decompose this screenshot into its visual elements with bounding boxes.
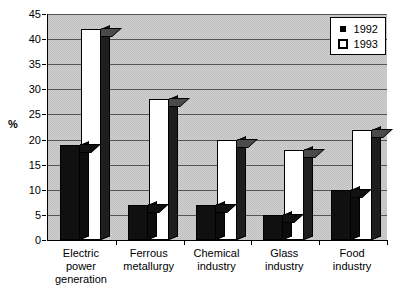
x-axis-tick-mark	[387, 240, 388, 245]
x-axis-tick-mark	[251, 240, 252, 245]
bar-side-face	[304, 146, 313, 240]
bar-group	[184, 14, 252, 240]
bar-side-face	[101, 25, 110, 240]
y-axis-tick-mark	[42, 240, 46, 241]
category-label-line: generation	[42, 273, 120, 286]
y-axis-tick-mark	[42, 64, 46, 65]
category-label-line: Chemical	[178, 247, 256, 260]
bar-side-face	[372, 126, 381, 240]
y-axis-tick-mark	[42, 39, 46, 40]
category-label-1: Electricpowergeneration	[42, 247, 120, 286]
legend-item-1992: 1992	[336, 21, 378, 36]
category-label-2: Ferrousmetallurgy	[110, 247, 188, 273]
legend-item-1993: 1993	[336, 36, 378, 51]
y-axis-tick-mark	[42, 140, 46, 141]
legend-label-1993: 1993	[354, 38, 378, 50]
category-label-line: Ferrous	[110, 247, 188, 260]
bar-side-face	[169, 96, 178, 240]
category-label-line: Electric	[42, 247, 120, 260]
category-label-line: industry	[313, 260, 391, 273]
category-label-5: Foodindustry	[313, 247, 391, 273]
category-label-line: Glass	[245, 247, 323, 260]
y-axis-tick-label: 40	[8, 34, 41, 45]
legend: 1992 1993	[330, 17, 386, 55]
category-label-4: Glassindustry	[245, 247, 323, 273]
y-axis-tick-label: 5	[8, 210, 41, 221]
category-label-line: power	[42, 260, 120, 273]
x-axis-tick-mark	[184, 240, 185, 245]
bar-1992-3	[196, 205, 216, 240]
y-axis-tick-label: 10	[8, 185, 41, 196]
category-label-line: industry	[178, 260, 256, 273]
bar-front-face	[331, 190, 351, 240]
bar-group	[251, 14, 319, 240]
bar-1992-4	[263, 215, 283, 240]
category-label-line: industry	[245, 260, 323, 273]
bar-front-face	[60, 145, 80, 240]
y-axis-tick-label: 0	[8, 235, 41, 246]
bar-front-face	[263, 215, 283, 240]
category-label-line: metallurgy	[110, 260, 188, 273]
bar-group	[116, 14, 184, 240]
y-axis-tick-mark	[42, 190, 46, 191]
bar-front-face	[128, 205, 148, 240]
y-axis-tick-mark	[42, 89, 46, 90]
x-axis-tick-mark	[116, 240, 117, 245]
y-axis-tick-label: 45	[8, 9, 41, 20]
bar-chart: % 051015202530354045 Electricpowergenera…	[0, 0, 395, 295]
y-axis-tick-mark	[42, 165, 46, 166]
bar-1992-1	[60, 145, 80, 240]
category-label-3: Chemicalindustry	[178, 247, 256, 273]
x-axis-tick-mark	[319, 240, 320, 245]
y-axis-tick-mark	[42, 215, 46, 216]
category-label-line: Food	[313, 247, 391, 260]
y-axis-tick-mark	[42, 114, 46, 115]
y-axis-tick-label: 30	[8, 84, 41, 95]
outlined-white-square-icon	[336, 39, 351, 49]
bar-1992-2	[128, 205, 148, 240]
bar-side-face	[80, 141, 89, 240]
y-axis-tick-label: 35	[8, 59, 41, 70]
y-axis-tick-mark	[42, 14, 46, 15]
filled-black-square-icon	[336, 26, 351, 32]
bar-group	[48, 14, 116, 240]
y-axis-tick-label: 15	[8, 160, 41, 171]
y-axis-tick-label: 25	[8, 109, 41, 120]
legend-label-1992: 1992	[354, 23, 378, 35]
bar-front-face	[196, 205, 216, 240]
bar-1992-5	[331, 190, 351, 240]
bar-side-face	[237, 136, 246, 240]
y-axis-tick-label: 20	[8, 135, 41, 146]
